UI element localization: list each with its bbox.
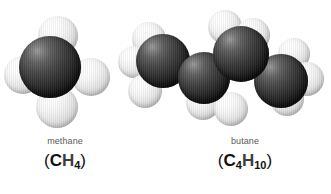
formula-hydrogen-count: 4 <box>74 159 80 171</box>
butane-model <box>118 0 331 132</box>
methane-name-label: methane <box>14 136 116 147</box>
formula-hydrogen-symbol: H <box>242 151 254 170</box>
butane-caption: butane (C4H10) <box>180 136 310 172</box>
formula-carbon-count: 4 <box>236 159 242 171</box>
formula-close-paren: ) <box>80 151 86 170</box>
methane-formula: (CH4) <box>14 151 116 172</box>
methane-caption: methane (CH4) <box>14 136 116 172</box>
formula-carbon-symbol: C <box>224 151 236 170</box>
butane-formula: (C4H10) <box>180 151 310 172</box>
carbon-atom <box>19 36 81 98</box>
formula-close-paren: ) <box>266 151 272 170</box>
carbon-atom <box>213 26 269 82</box>
butane-name-label: butane <box>180 136 310 147</box>
formula-carbon-symbol: C <box>50 151 62 170</box>
methane-model <box>0 0 130 132</box>
molecular-models-figure: methane (CH4) butane (C4H10) <box>0 0 331 194</box>
formula-hydrogen-symbol: H <box>62 151 74 170</box>
formula-hydrogen-count: 10 <box>254 159 266 171</box>
